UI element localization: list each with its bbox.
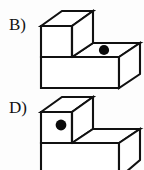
option-d-drawing <box>0 0 144 170</box>
option-d-dot <box>56 120 67 131</box>
figure-panel: B) D) <box>0 0 144 170</box>
front-face-lower-body-d <box>41 143 119 170</box>
option-d-figure <box>0 0 144 170</box>
